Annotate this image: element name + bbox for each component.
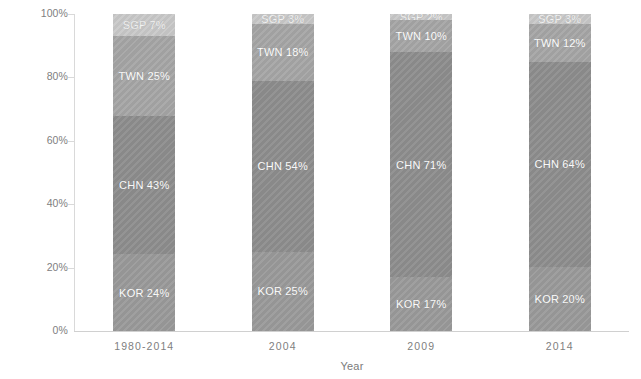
y-axis-ticks: 0%20%40%60%80%100%: [16, 0, 68, 379]
bar-segment-label: CHN 71%: [396, 159, 446, 171]
x-tick-label-2004: 2004: [213, 340, 353, 352]
y-tick-label-80: 80%: [22, 71, 68, 82]
bar-segment-label: KOR 20%: [535, 293, 585, 305]
bar-stack: SGP 7%TWN 25%CHN 43%KOR 24%: [113, 14, 175, 331]
bar-segment-twn[interactable]: TWN 10%: [390, 20, 452, 52]
bar-group[interactable]: SGP 7%TWN 25%CHN 43%KOR 24%: [113, 14, 175, 331]
bar-segment-label: KOR 17%: [396, 298, 446, 310]
bar-segment-label: TWN 12%: [534, 37, 586, 49]
bar-group[interactable]: SGP 3%TWN 12%CHN 64%KOR 20%: [529, 14, 591, 331]
y-tick-label-100: 100%: [22, 8, 68, 19]
bar-group[interactable]: SGP 2%TWN 10%CHN 71%KOR 17%: [390, 14, 452, 331]
stacked-bar-chart: Percent share 0%20%40%60%80%100% SGP 7%T…: [0, 0, 641, 379]
bar-segment-sgp[interactable]: SGP 3%: [529, 14, 591, 24]
plot-area: SGP 7%TWN 25%CHN 43%KOR 24%SGP 3%TWN 18%…: [75, 14, 629, 331]
x-tick-label-2014: 2014: [490, 340, 630, 352]
bar-segment-twn[interactable]: TWN 18%: [252, 24, 314, 81]
y-tick-label-60: 60%: [22, 135, 68, 146]
bar-segment-chn[interactable]: CHN 64%: [529, 62, 591, 267]
bar-segment-label: KOR 25%: [258, 285, 308, 297]
bar-segment-label: TWN 10%: [395, 30, 447, 42]
bar-group[interactable]: SGP 3%TWN 18%CHN 54%KOR 25%: [252, 14, 314, 331]
bar-segment-sgp[interactable]: SGP 3%: [252, 14, 314, 24]
x-tick-label-2009: 2009: [351, 340, 491, 352]
bar-segment-twn[interactable]: TWN 12%: [529, 24, 591, 62]
bar-segment-kor[interactable]: KOR 25%: [252, 252, 314, 331]
bar-segment-label: CHN 43%: [119, 179, 169, 191]
bar-stack: SGP 3%TWN 12%CHN 64%KOR 20%: [529, 14, 591, 331]
y-tick-label-0: 0%: [22, 325, 68, 336]
bar-segment-label: TWN 25%: [118, 70, 170, 82]
bar-segment-chn[interactable]: CHN 43%: [113, 116, 175, 254]
y-tick-label-20: 20%: [22, 262, 68, 273]
bar-segment-chn[interactable]: CHN 54%: [252, 81, 314, 252]
bar-segment-label: SGP 3%: [261, 14, 304, 24]
bar-segment-twn[interactable]: TWN 25%: [113, 36, 175, 116]
x-tick-label-1980-2014: 1980-2014: [74, 340, 214, 352]
bar-segment-label: TWN 18%: [257, 46, 309, 58]
y-tick-label-40: 40%: [22, 198, 68, 209]
bar-segment-kor[interactable]: KOR 17%: [390, 277, 452, 331]
bar-segment-label: SGP 7%: [123, 19, 166, 31]
bar-segment-sgp[interactable]: SGP 7%: [113, 14, 175, 36]
bar-segment-kor[interactable]: KOR 20%: [529, 267, 591, 331]
bar-segment-label: KOR 24%: [119, 287, 169, 299]
bar-segment-label: CHN 54%: [258, 160, 308, 172]
x-axis-line: [74, 331, 629, 332]
bar-segment-label: CHN 64%: [535, 158, 585, 170]
bar-segment-label: SGP 3%: [538, 14, 581, 24]
bar-stack: SGP 2%TWN 10%CHN 71%KOR 17%: [390, 14, 452, 331]
x-axis-title: Year: [75, 360, 629, 372]
bar-segment-chn[interactable]: CHN 71%: [390, 52, 452, 277]
bar-segment-kor[interactable]: KOR 24%: [113, 254, 175, 331]
bar-stack: SGP 3%TWN 18%CHN 54%KOR 25%: [252, 14, 314, 331]
